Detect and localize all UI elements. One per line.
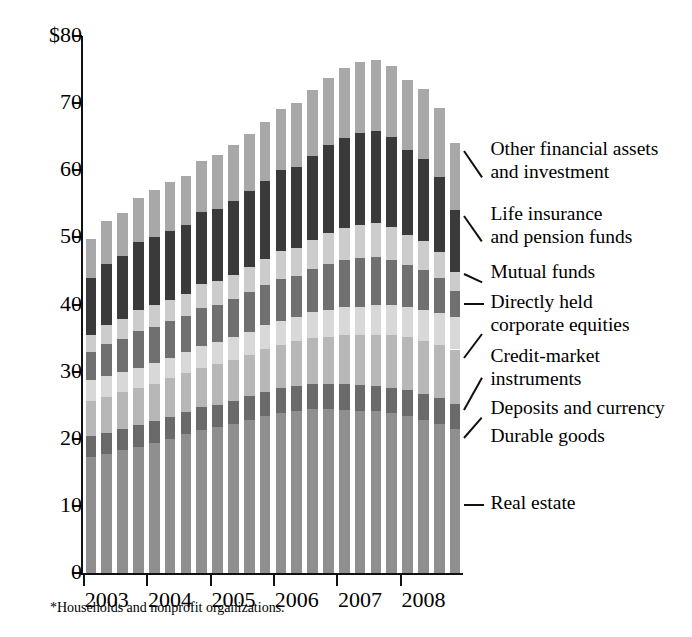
y-axis-tick-label: $80: [0, 24, 82, 46]
bar-segment: [196, 430, 207, 573]
callout-label-line2: and investment: [490, 161, 658, 184]
callout-leader-line: [464, 504, 484, 506]
bar-segment: [117, 256, 128, 319]
plot-area: [83, 36, 463, 573]
callout-label-line1: Life insurance: [490, 203, 632, 226]
x-axis-tick: [146, 575, 148, 586]
bar-segment: [260, 259, 271, 285]
bar-segment: [181, 373, 192, 412]
bar-segment: [149, 363, 160, 384]
callout-label-line1: Deposits and currency: [490, 397, 664, 420]
bar-segment: [276, 109, 287, 171]
bar-segment: [228, 360, 239, 401]
bar-segment: [86, 278, 97, 334]
callout-label: Real estate: [490, 492, 575, 515]
bar-segment: [434, 108, 445, 177]
bar-segment: [339, 410, 350, 573]
x-axis-tick-label: 2007: [325, 588, 395, 612]
callout-leader-line: [464, 417, 484, 439]
bar-segment: [418, 420, 429, 573]
y-axis-tick-label: 40: [0, 293, 82, 315]
bar-segment: [133, 242, 144, 310]
callout-label-line1: Mutual funds: [490, 261, 595, 284]
y-axis-tick-label-text: $80: [26, 24, 82, 46]
y-axis-tick-label: 60: [0, 158, 82, 180]
y-axis-tick-label-text: 10: [26, 494, 82, 516]
bar-segment: [117, 339, 128, 372]
bar-segment: [339, 384, 350, 410]
bar-segment: [101, 397, 112, 433]
bar-segment: [165, 321, 176, 357]
bar-segment: [149, 190, 160, 237]
bar-segment: [450, 317, 461, 350]
bar-segment: [307, 384, 318, 409]
y-axis-tick-label: 30: [0, 360, 82, 382]
bar-segment: [86, 335, 97, 352]
callout-label-line1: Other financial assets: [490, 138, 658, 161]
bar-segment: [323, 145, 334, 233]
y-axis-tick-label-text: 50: [26, 225, 82, 247]
bar-segment: [339, 228, 350, 260]
bar-segment: [181, 412, 192, 434]
bar-segment: [133, 447, 144, 573]
bar-segment: [339, 138, 350, 228]
bar-2008Q1: [402, 36, 413, 573]
bar-segment: [450, 350, 461, 404]
bar-segment: [181, 294, 192, 315]
bar-segment: [339, 260, 350, 307]
bar-segment: [101, 264, 112, 326]
x-axis-tick: [400, 575, 402, 586]
bar-segment: [291, 276, 302, 317]
bar-2003Q3: [117, 36, 128, 573]
bar-segment: [101, 376, 112, 397]
bar-segment: [386, 413, 397, 573]
bar-segment: [149, 327, 160, 363]
y-axis-tick-label: 50: [0, 225, 82, 247]
bar-segment: [181, 225, 192, 294]
callout-leader-line: [464, 303, 484, 305]
bar-segment: [434, 424, 445, 573]
bar-2008Q2: [418, 36, 429, 573]
bar-segment: [117, 450, 128, 573]
y-axis-tick-label-text: 20: [26, 427, 82, 449]
bar-segment: [276, 345, 287, 389]
bar-2007Q1: [339, 36, 350, 573]
bar-segment: [244, 134, 255, 191]
callout-label: Life insuranceand pension funds: [490, 203, 632, 248]
bar-2008Q4: [450, 36, 461, 573]
bar-segment: [117, 372, 128, 393]
x-axis-tick: [210, 575, 212, 586]
bar-segment: [228, 145, 239, 201]
bar-segment: [276, 388, 287, 412]
x-axis-tick: [83, 575, 85, 586]
bar-segment: [291, 248, 302, 276]
bar-segment: [276, 170, 287, 251]
bar-segment: [355, 225, 366, 259]
bar-segment: [244, 420, 255, 573]
bar-segment: [228, 401, 239, 424]
bar-segment: [86, 457, 97, 573]
y-axis-tick-label: 0: [0, 561, 82, 583]
bar-2006Q1: [276, 36, 287, 573]
bar-segment: [307, 269, 318, 312]
bar-segment: [244, 292, 255, 332]
bar-segment: [291, 103, 302, 167]
bar-segment: [181, 352, 192, 373]
bar-segment: [212, 364, 223, 404]
bar-segment: [418, 159, 429, 242]
bar-segment: [133, 310, 144, 331]
bar-segment: [101, 433, 112, 454]
bar-segment: [165, 439, 176, 573]
bar-segment: [386, 137, 397, 227]
callout-label-line2: instruments: [490, 368, 599, 391]
bar-segment: [323, 233, 334, 264]
bar-2006Q3: [307, 36, 318, 573]
bar-2007Q4: [386, 36, 397, 573]
bar-2008Q3: [434, 36, 445, 573]
bar-segment: [402, 265, 413, 307]
callout-label: Directly heldcorporate equities: [490, 291, 629, 336]
bar-segment: [117, 429, 128, 450]
bar-segment: [260, 325, 271, 348]
bar-segment: [212, 305, 223, 343]
callout-leader-line: [464, 273, 483, 283]
